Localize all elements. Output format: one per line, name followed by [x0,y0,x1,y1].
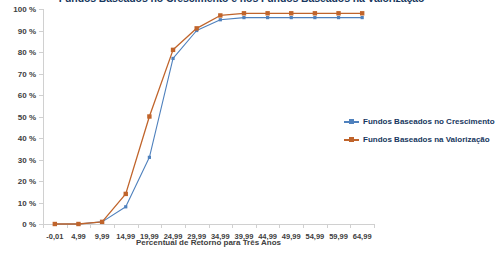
y-axis-tick-label: 50 % [18,112,36,121]
data-point-marker [242,11,246,15]
data-point-marker [242,16,245,19]
legend-swatch-icon [344,117,359,126]
data-point-marker [313,11,317,15]
y-axis-tick-label: 30 % [18,155,36,164]
plot-area: 0 %10 %20 %30 %40 %50 %60 %70 %80 %90 %1… [43,9,374,224]
data-point-marker [265,11,269,15]
legend-item[interactable]: Fundos Baseados na Valorização [344,135,495,144]
x-axis-tick [161,224,162,228]
x-axis-tick [114,224,115,228]
data-point-marker [147,114,151,118]
x-axis-tick [90,224,91,228]
data-point-marker [266,16,269,19]
x-axis-tick [43,224,44,228]
legend-item-label: Fundos Baseados no Crescimento [363,117,495,126]
data-point-marker [218,13,222,17]
data-point-marker [337,16,340,19]
y-axis-tick-label: 40 % [18,134,36,143]
data-point-marker [171,57,174,60]
data-point-marker [360,11,364,15]
x-axis-title: Percentual de Retorno para Três Anos [43,238,374,247]
data-point-marker [76,222,80,226]
data-point-marker [219,18,222,21]
data-point-marker [53,222,57,226]
legend-item-label: Fundos Baseados na Valorização [363,135,490,144]
chart-title: Fundos Baseados no Crescimento e nos Fun… [0,0,483,4]
data-point-marker [171,48,175,52]
data-point-marker [289,11,293,15]
series-line [55,18,362,224]
x-axis-tick [185,224,186,228]
y-axis-tick-label: 90 % [18,26,36,35]
series-layer [43,9,374,224]
legend-swatch-icon [344,135,359,144]
x-axis-tick [138,224,139,228]
x-axis-tick [374,224,375,228]
y-axis-tick-label: 70 % [18,69,36,78]
series-line [55,13,362,224]
data-point-marker [148,156,151,159]
y-axis-tick-label: 60 % [18,91,36,100]
y-axis-tick-label: 80 % [18,48,36,57]
y-axis-tick-label: 10 % [18,198,36,207]
data-point-marker [194,26,198,30]
data-point-marker [290,16,293,19]
x-axis-tick [279,224,280,228]
legend-item[interactable]: Fundos Baseados no Crescimento [344,117,495,126]
x-axis-tick [350,224,351,228]
data-point-marker [100,220,104,224]
x-axis-tick [256,224,257,228]
data-point-marker [336,11,340,15]
y-axis-tick-label: 20 % [18,177,36,186]
x-axis-tick [303,224,304,228]
y-axis-tick-label: 100 % [13,5,36,14]
data-point-marker [313,16,316,19]
x-axis-tick [327,224,328,228]
y-axis-tick-label: 0 % [22,220,36,229]
data-point-marker [124,205,127,208]
x-axis-tick [209,224,210,228]
data-point-marker [124,192,128,196]
x-axis-tick [232,224,233,228]
chart-legend: Fundos Baseados no CrescimentoFundos Bas… [344,117,495,144]
data-point-marker [361,16,364,19]
